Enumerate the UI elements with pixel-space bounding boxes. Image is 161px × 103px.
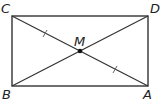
midpoint-m xyxy=(78,49,83,54)
label-m: M xyxy=(74,34,85,49)
label-c: C xyxy=(1,1,11,16)
rectangle-diagram: C D B A M xyxy=(0,0,161,103)
label-b: B xyxy=(2,87,11,102)
label-d: D xyxy=(150,1,160,16)
label-a: A xyxy=(142,87,152,102)
